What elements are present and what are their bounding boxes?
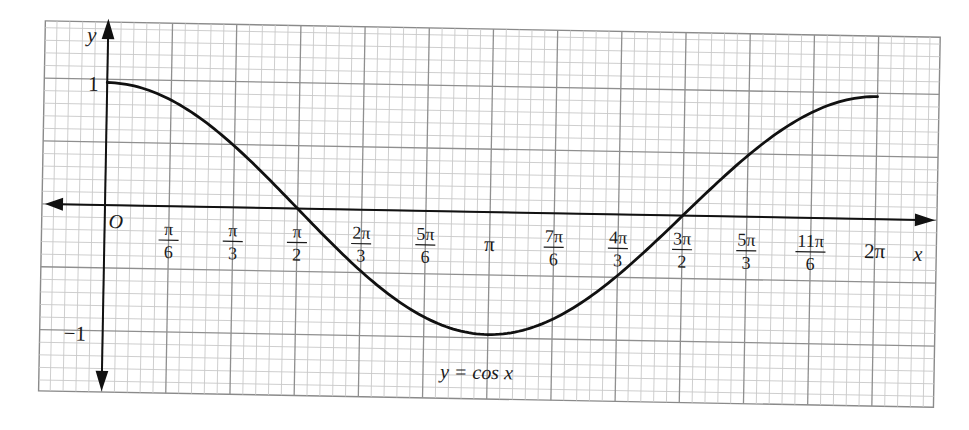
x-tick-whole: π xyxy=(484,232,495,256)
fraction-bar xyxy=(795,252,825,253)
x-tick-denominator: 3 xyxy=(228,243,237,263)
x-axis-label: x xyxy=(912,242,923,266)
y-tick-minus-1: −1 xyxy=(63,321,86,345)
cosine-graph: y x O 1 −1 π6π3π22π35π6π7π64π33π25π311π6… xyxy=(0,0,969,430)
x-tick-denominator: 3 xyxy=(741,253,750,273)
x-tick-numerator: 7π xyxy=(545,226,563,246)
x-tick-numerator: 5π xyxy=(737,230,755,250)
x-tick-label: 2π xyxy=(864,239,886,263)
x-tick-denominator: 6 xyxy=(549,249,558,269)
origin-label: O xyxy=(109,210,124,232)
x-tick-denominator: 3 xyxy=(613,250,622,270)
x-tick-denominator: 3 xyxy=(356,246,365,266)
x-tick-whole: 2π xyxy=(864,239,886,263)
x-tick-numerator: π xyxy=(292,221,301,241)
x-tick-numerator: 11π xyxy=(797,231,824,251)
y-axis-label: y xyxy=(85,23,97,47)
x-tick-denominator: 6 xyxy=(420,247,429,267)
x-tick-numerator: 2π xyxy=(352,223,370,243)
function-label: y = cos x xyxy=(438,360,513,384)
x-tick-numerator: 5π xyxy=(416,224,434,244)
x-tick-numerator: π xyxy=(164,219,173,239)
x-tick-numerator: π xyxy=(228,220,237,240)
x-tick-denominator: 2 xyxy=(292,244,301,264)
x-tick-denominator: 2 xyxy=(677,251,686,271)
x-tick-numerator: 3π xyxy=(673,228,691,248)
graph-paper: y x O 1 −1 π6π3π22π35π6π7π64π33π25π311π6… xyxy=(39,21,941,407)
x-tick-denominator: 6 xyxy=(164,242,173,262)
grid-border xyxy=(39,21,941,407)
x-tick-numerator: 4π xyxy=(609,227,627,247)
x-tick-label: π xyxy=(484,232,495,256)
x-tick-denominator: 6 xyxy=(806,254,815,274)
y-tick-1: 1 xyxy=(88,72,99,96)
